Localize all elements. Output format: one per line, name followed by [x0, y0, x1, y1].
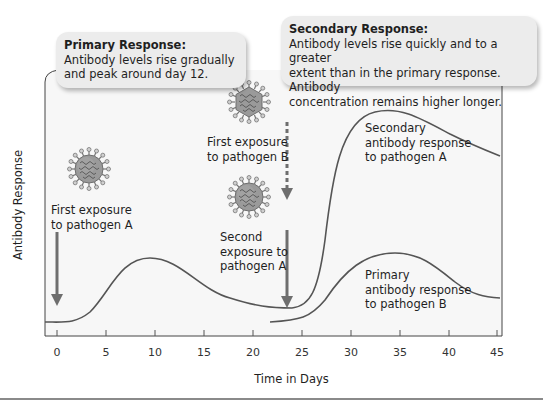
label-line: First exposure [207, 135, 289, 150]
callout-line: and peak around day 12. [64, 67, 238, 82]
pathogen-a-virus-icon [68, 148, 111, 191]
x-tick-label: 10 [148, 346, 162, 359]
callout-title: Secondary Response: [289, 22, 529, 37]
callout-line: Antibody levels rise gradually [64, 53, 238, 68]
label-line: pathogen A [220, 259, 288, 274]
secondary-curve-label: Secondary antibody response to pathogen … [365, 121, 471, 165]
callout-line: concentration remains higher longer. [289, 95, 529, 110]
x-tick-label: 20 [246, 346, 260, 359]
second-exposure-a-label: Second exposure to pathogen A [220, 230, 288, 274]
label-line: antibody response [365, 136, 471, 151]
x-tick-label: 40 [442, 346, 456, 359]
x-tick-label: 45 [490, 346, 504, 359]
label-line: Secondary [365, 121, 471, 136]
label-line: to pathogen B [365, 297, 471, 312]
bottom-divider [0, 398, 543, 400]
x-axis-label: Time in Days [0, 372, 543, 386]
first-exposure-b-label: First exposure to pathogen B [207, 135, 289, 164]
label-line: exposure to [220, 245, 288, 260]
y-axis-label: Antibody Response [11, 145, 25, 265]
label-line: Primary [365, 268, 471, 283]
label-line: antibody response [365, 283, 471, 298]
x-tick-label: 15 [197, 346, 211, 359]
x-tick-label: 30 [344, 346, 358, 359]
callout-line: Antibody levels rise quickly and to a gr… [289, 37, 529, 66]
label-line: Second [220, 230, 288, 245]
label-line: to pathogen A [51, 218, 133, 233]
callout-line: extent than in the primary response. Ant… [289, 66, 529, 95]
callout-title: Primary Response: [64, 38, 238, 53]
primary-b-curve-label: Primary antibody response to pathogen B [365, 268, 471, 312]
label-line: First exposure [51, 203, 133, 218]
first-exposure-a-label: First exposure to pathogen A [51, 203, 133, 232]
primary-response-callout: Primary Response: Antibody levels rise g… [56, 32, 246, 88]
x-tick-label: 5 [103, 346, 110, 359]
x-tick-label: 0 [54, 346, 61, 359]
x-tick-label: 25 [295, 346, 309, 359]
x-tick-label: 35 [393, 346, 407, 359]
label-line: to pathogen B [207, 150, 289, 165]
label-line: to pathogen A [365, 150, 471, 165]
secondary-response-callout: Secondary Response: Antibody levels rise… [281, 16, 537, 86]
pathogen-a-virus-icon-2 [228, 176, 271, 219]
